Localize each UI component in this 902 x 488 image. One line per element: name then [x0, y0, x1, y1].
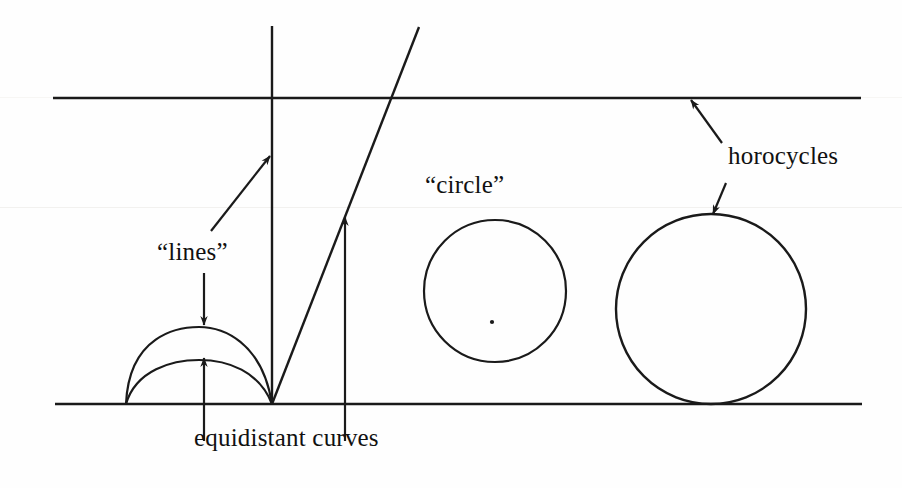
label-circle: “circle”	[425, 171, 504, 199]
inner-equidistant-arc	[126, 360, 272, 404]
hyperbolic-geometry-diagram	[0, 0, 902, 488]
label-horocycles: horocycles	[728, 142, 838, 170]
label-equidistant-curves: equidistant curves	[194, 424, 379, 452]
arrow-horocycles-to-horocycle-circle	[713, 183, 726, 214]
arrow-lines-to-vertical-geodesic	[211, 156, 270, 231]
hyperbolic-circle	[424, 220, 566, 362]
circle-center-dot	[490, 320, 494, 324]
label-lines: “lines”	[157, 238, 228, 266]
outer-equidistant-arc	[126, 327, 272, 404]
figure-canvas: “lines” “circle” horocycles equidistant …	[0, 0, 902, 488]
arrow-horocycles-to-top-line	[691, 100, 722, 143]
horocycle-circle	[616, 214, 806, 404]
